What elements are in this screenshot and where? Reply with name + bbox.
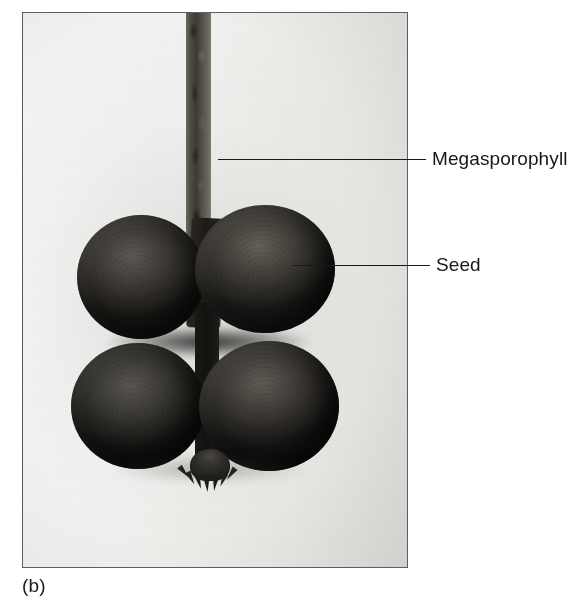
callout-label-megasporophyll: Megasporophyll [432,148,568,170]
cluster-drop-shadow [69,453,349,493]
seed-upper-left [77,215,205,339]
seed-surface-texture [77,215,205,339]
photograph [22,12,408,568]
callout-label-seed: Seed [436,254,481,276]
figure-caption: (b) [22,574,46,598]
leader-line-seed [293,265,430,266]
seed-surface-texture [195,205,335,333]
leader-line-megasporophyll [218,159,426,160]
specimen [23,13,408,568]
figure-root: Megasporophyll Seed (b) [0,0,587,607]
seed-upper-right [195,205,335,333]
